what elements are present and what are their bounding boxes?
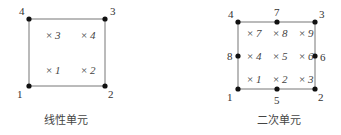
integration-point-4: × 4 <box>81 29 96 41</box>
integration-point-7: × 7 <box>247 27 262 39</box>
node-7-label: 7 <box>274 6 280 18</box>
node-1-dot <box>235 86 240 91</box>
node-8-dot <box>235 53 240 58</box>
integration-point-1: × 1 <box>247 73 261 85</box>
node-3-label: 3 <box>110 5 116 17</box>
node-2-label: 2 <box>108 88 114 100</box>
node-8-label: 8 <box>227 50 233 62</box>
integration-point-3: × 3 <box>46 29 61 41</box>
node-1-label: 1 <box>227 91 233 103</box>
integration-point-3: × 3 <box>299 73 314 85</box>
integration-point-6: × 6 <box>299 50 314 62</box>
node-5-dot <box>274 86 279 91</box>
integration-point-8: × 8 <box>273 27 288 39</box>
quadratic-element-caption: 二次单元 <box>257 111 301 127</box>
node-3-dot <box>312 19 317 24</box>
integration-point-5: × 5 <box>273 50 288 62</box>
node-1-label: 1 <box>17 88 23 100</box>
node-2-label: 2 <box>318 91 324 103</box>
node-4-label: 4 <box>19 5 25 17</box>
node-1-dot <box>26 83 31 88</box>
node-4-label: 4 <box>228 8 234 20</box>
integration-point-2: × 2 <box>81 64 96 76</box>
node-4-dot <box>26 16 31 21</box>
node-4-dot <box>235 19 240 24</box>
node-2-dot <box>102 83 107 88</box>
integration-point-4: × 4 <box>247 50 262 62</box>
node-7-dot <box>274 19 279 24</box>
node-3-label: 3 <box>319 8 325 20</box>
linear-element-caption: 线性单元 <box>44 111 88 127</box>
quadratic-element: 12345678× 1× 2× 3× 4× 5× 6× 7× 8× 9 <box>227 6 326 106</box>
node-3-dot <box>102 16 107 21</box>
integration-point-1: × 1 <box>46 64 60 76</box>
node-5-label: 5 <box>274 94 280 106</box>
integration-point-9: × 9 <box>299 27 314 39</box>
node-2-dot <box>312 86 317 91</box>
node-6-label: 6 <box>320 51 326 63</box>
integration-point-2: × 2 <box>273 73 288 85</box>
